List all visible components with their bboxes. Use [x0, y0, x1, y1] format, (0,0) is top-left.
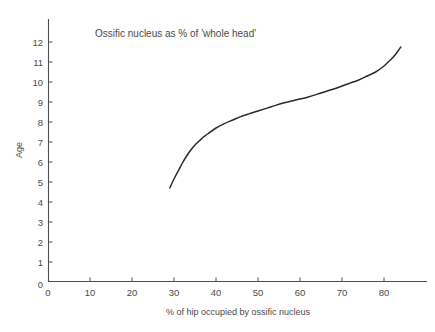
x-tick-label-60: 60 — [295, 287, 306, 298]
x-axis-title: % of hip occupied by ossific nucleus — [166, 307, 311, 317]
x-tick-label-20: 20 — [127, 287, 138, 298]
line-chart: Ossific nucleus as % of 'whole head' 12 … — [0, 0, 435, 332]
y-tick-label-6: 6 — [38, 157, 43, 168]
y-tick-label-2: 2 — [38, 237, 43, 248]
x-tick-label-30: 30 — [169, 287, 180, 298]
x-tick-label-40: 40 — [211, 287, 222, 298]
chart-figure: Ossific nucleus as % of 'whole head' 12 … — [0, 0, 435, 332]
data-series-line — [170, 47, 401, 188]
chart-title: Ossific nucleus as % of 'whole head' — [95, 28, 256, 39]
y-tick-label-3: 3 — [38, 217, 43, 228]
y-tick-label-12: 12 — [32, 37, 43, 48]
y-axis-title: Age — [14, 142, 24, 158]
x-tick-label-70: 70 — [337, 287, 348, 298]
y-tick-label-7: 7 — [38, 137, 43, 148]
x-axis-tick-labels: 0 10 20 30 40 50 60 70 80 — [45, 287, 389, 298]
y-tick-label-11: 11 — [33, 57, 43, 68]
y-tick-label-0: 0 — [38, 279, 43, 290]
y-tick-label-1: 1 — [38, 257, 43, 268]
y-tick-label-5: 5 — [38, 177, 43, 188]
x-tick-label-10: 10 — [85, 287, 96, 298]
x-axis-ticks — [90, 278, 384, 282]
y-tick-label-10: 10 — [32, 77, 43, 88]
y-tick-label-9: 9 — [38, 97, 43, 108]
x-tick-label-0: 0 — [45, 287, 50, 298]
x-tick-label-80: 80 — [379, 287, 390, 298]
y-tick-label-8: 8 — [38, 117, 43, 128]
y-axis-tick-labels: 12 11 10 9 8 7 6 5 4 3 2 1 0 — [32, 37, 43, 291]
y-tick-label-4: 4 — [38, 197, 43, 208]
y-axis-ticks — [49, 42, 53, 262]
x-tick-label-50: 50 — [253, 287, 264, 298]
